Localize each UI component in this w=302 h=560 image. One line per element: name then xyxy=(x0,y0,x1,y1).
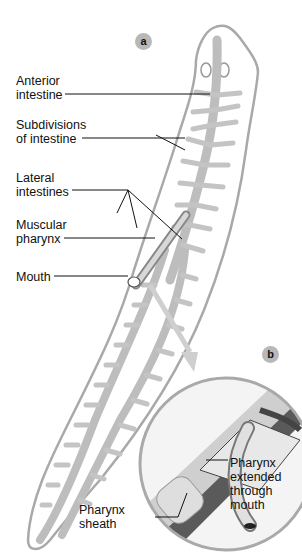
panel-b-badge: b xyxy=(262,346,279,363)
label-pharynx-extended: Pharynx extended through mouth xyxy=(230,456,281,512)
panel-a-badge: a xyxy=(135,33,152,50)
label-subdivisions-of-intestine: Subdivisions of intestine xyxy=(16,118,86,146)
planarian-diagram: a b Anterior intestine Subdivisions of i… xyxy=(0,0,302,560)
label-mouth: Mouth xyxy=(16,270,51,284)
label-pharynx-sheath: Pharynx sheath xyxy=(79,503,125,531)
label-anterior-intestine: Anterior intestine xyxy=(16,74,63,102)
eyespot-left xyxy=(201,63,211,77)
label-lateral-intestines: Lateral intestines xyxy=(16,171,69,199)
label-muscular-pharynx: Muscular pharynx xyxy=(16,218,67,246)
mouth-opening xyxy=(128,277,140,287)
